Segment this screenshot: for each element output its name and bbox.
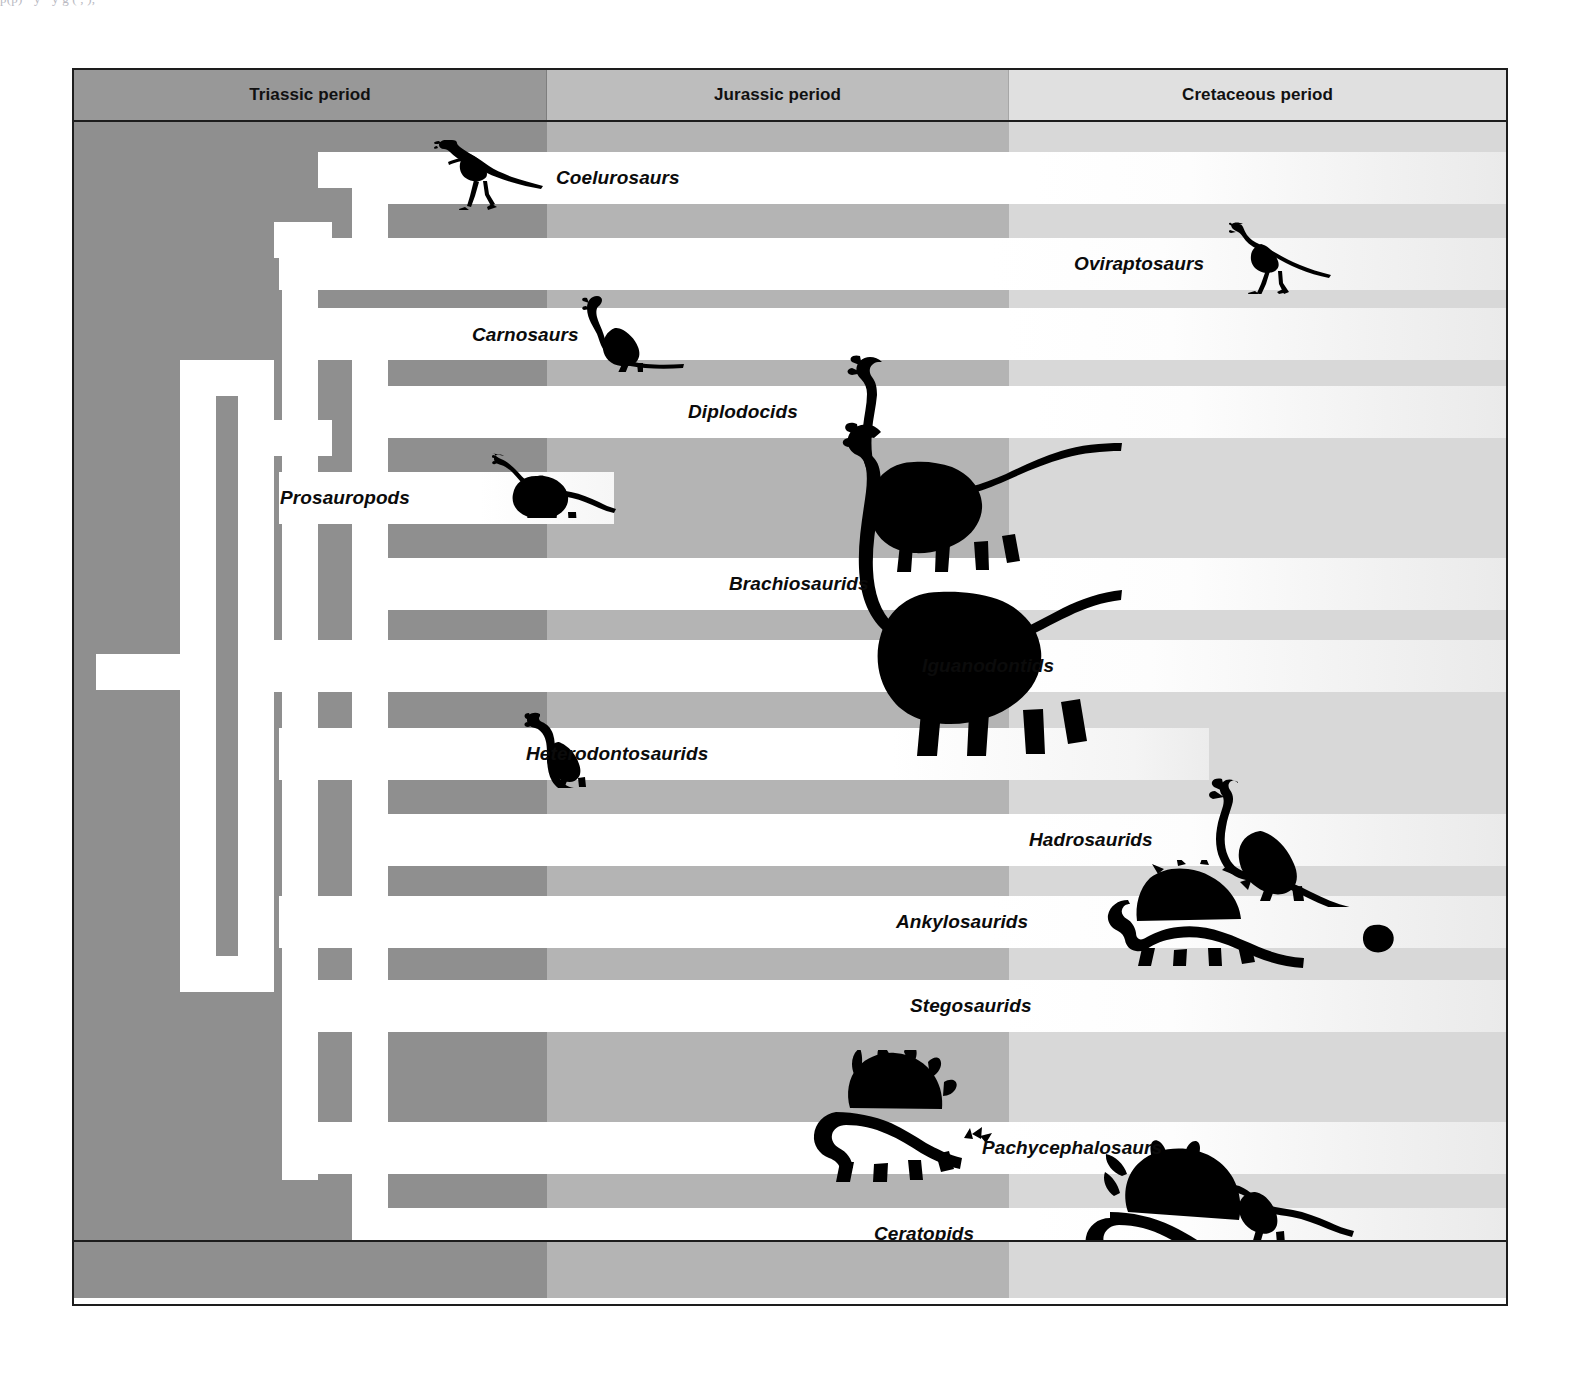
clade-label-pachycephalosaurs[interactable]: Pachycephalosaurs bbox=[982, 1137, 1162, 1159]
clade-label-coelurosaurs[interactable]: Coelurosaurs bbox=[556, 167, 680, 189]
tree-root-stub bbox=[96, 654, 180, 690]
clade-label-heterodontosaurids[interactable]: Heterodontosaurids bbox=[526, 743, 708, 765]
period-header-jurassic: Jurassic period bbox=[547, 70, 1009, 120]
prosauropod-silhouette bbox=[492, 452, 627, 518]
period-footer-cretaceous bbox=[1009, 1242, 1506, 1298]
tree-node-saurischia-v bbox=[238, 360, 274, 752]
carnosaur-silhouette bbox=[579, 294, 709, 372]
cladogram-frame: Triassic period Jurassic period Cretaceo… bbox=[72, 68, 1508, 1306]
period-header-row: Triassic period Jurassic period Cretaceo… bbox=[74, 70, 1506, 120]
coelurosaur-silhouette bbox=[434, 132, 554, 210]
tree-node-sauropodomorpha-v bbox=[282, 420, 318, 750]
period-header-cretaceous-label: Cretaceous period bbox=[1182, 85, 1333, 105]
tree-node-ornithischia-v bbox=[238, 728, 274, 992]
stegosaurid-silhouette bbox=[806, 1050, 1006, 1182]
period-header-jurassic-label: Jurassic period bbox=[714, 85, 841, 105]
clade-label-diplodocids[interactable]: Diplodocids bbox=[688, 401, 798, 423]
period-footer-jurassic bbox=[547, 1242, 1009, 1298]
clade-label-stegosaurids[interactable]: Stegosaurids bbox=[910, 995, 1032, 1017]
clade-label-hadrosaurids[interactable]: Hadrosaurids bbox=[1029, 829, 1153, 851]
cladogram-plot-area: Coelurosaurs Oviraptosaurs Carnosaurs Di… bbox=[74, 122, 1506, 1240]
clade-label-brachiosaurids[interactable]: Brachiosaurids bbox=[729, 573, 869, 595]
figure-page: p(p) · y · y g ( , ), · Triassic period … bbox=[0, 0, 1586, 1400]
clade-label-iguanodontids[interactable]: Iguanodontids bbox=[922, 655, 1054, 677]
tree-node-thyreophora-v bbox=[282, 1058, 318, 1180]
clade-label-prosauropods[interactable]: Prosauropods bbox=[280, 487, 410, 509]
clade-label-ceratopids[interactable]: Ceratopids bbox=[874, 1223, 974, 1240]
period-header-triassic-label: Triassic period bbox=[249, 85, 371, 105]
period-footer-row bbox=[74, 1242, 1506, 1298]
period-footer-triassic bbox=[74, 1242, 547, 1298]
period-header-triassic: Triassic period bbox=[74, 70, 547, 120]
clade-label-carnosaurs[interactable]: Carnosaurs bbox=[472, 324, 579, 346]
clade-label-oviraptosaurs[interactable]: Oviraptosaurs bbox=[1074, 253, 1204, 275]
clipped-caption-sliver: p(p) · y · y g ( , ), · bbox=[0, 0, 1586, 14]
clade-label-ankylosaurids[interactable]: Ankylosaurids bbox=[896, 911, 1028, 933]
period-header-cretaceous: Cretaceous period bbox=[1009, 70, 1506, 120]
oviraptosaur-silhouette bbox=[1229, 218, 1339, 294]
tree-node-root bbox=[180, 360, 216, 992]
ankylosaurid-silhouette bbox=[1104, 860, 1404, 968]
